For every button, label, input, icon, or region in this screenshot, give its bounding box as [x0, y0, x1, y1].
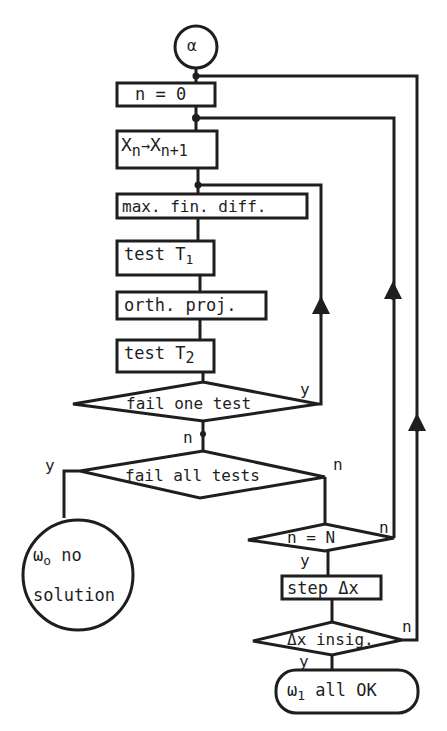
test1-label: test T1 — [124, 244, 193, 267]
start-label: α — [187, 36, 197, 55]
init-label: n = 0 — [135, 84, 186, 104]
nmax-no-label: n — [379, 518, 389, 537]
failone-yes-label: y — [300, 380, 310, 399]
nosol-label: ωo no solution — [33, 538, 115, 612]
flowchart — [0, 0, 447, 731]
failall-label: fail all tests — [125, 466, 260, 485]
nmax-label: n = N — [287, 528, 335, 547]
step-label: step Δx — [287, 578, 359, 598]
failall-no-label: n — [333, 455, 343, 474]
nmax-yes-label: y — [300, 551, 310, 570]
failall-yes-label: y — [45, 456, 55, 475]
failone-no-label: n — [183, 428, 193, 447]
ok-label: ω1 all OK — [287, 680, 377, 703]
insig-yes-label: y — [299, 652, 309, 671]
test2-label: test T2 — [124, 343, 194, 367]
failone-label: fail one test — [126, 394, 251, 413]
orth-label: orth. proj. — [124, 295, 237, 315]
insig-no-label: n — [402, 617, 412, 636]
insig-label: Δx insig. — [287, 630, 374, 649]
advance-label: Xn→Xn+1 — [121, 134, 188, 160]
maxdiff-label: max. fin. diff. — [122, 197, 267, 216]
